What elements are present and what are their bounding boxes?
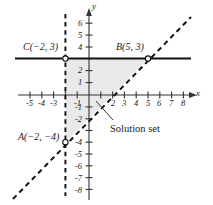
coordinate-plane-figure: -5 -4 -3 -1 2 3 4 5 6 7 8 6 5 4 2 1 -1 -… [0,0,213,205]
y-tick-label-1: 1 [78,78,82,87]
x-tick-label--3: -3 [50,99,57,108]
point-marker-c [63,56,68,61]
point-label-a: A(−2, −4) [18,132,59,142]
x-tick-label--4: -4 [38,99,45,108]
y-tick-label--2: -2 [75,115,82,124]
x-tick-label-5: 5 [146,99,150,108]
y-tick-label--5: -5 [75,150,82,159]
y-tick-label--7: -7 [75,174,82,183]
y-axis-label: y [92,2,96,11]
y-tick-label--4: -4 [75,138,82,147]
y-tick-label-2: 2 [78,66,82,75]
x-tick-label-2: 2 [111,99,115,108]
x-tick-label-3: 3 [122,99,126,108]
y-tick-label--1: -1 [75,103,82,112]
x-axis-label: x [196,89,200,98]
point-marker-a [63,140,68,145]
x-tick-label-7: 7 [169,99,173,108]
y-tick-label--8: -8 [75,186,82,195]
y-tick-label-6: 6 [78,19,82,28]
x-tick-label--5: -5 [26,99,33,108]
point-marker-b [145,56,150,61]
y-tick-label-5: 5 [78,31,82,40]
y-tick-label--6: -6 [75,162,82,171]
x-tick-label-4: 4 [134,99,138,108]
point-label-b: B(5, 3) [116,42,144,52]
x-tick-label-8: 8 [181,99,185,108]
solution-set-annotation: Solution set [110,124,160,135]
y-tick-label-4: 4 [78,43,82,52]
point-label-c: C(−2, 3) [23,42,58,52]
x-tick-label-6: 6 [157,99,161,108]
